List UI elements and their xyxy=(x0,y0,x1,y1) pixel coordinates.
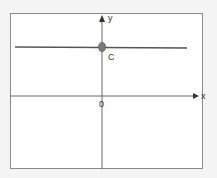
y-axis-label: y xyxy=(108,13,113,23)
x-axis-label: x xyxy=(201,91,206,101)
point-c-label: C xyxy=(108,52,115,62)
point-c-marker xyxy=(99,43,106,52)
y-axis-arrow-icon xyxy=(99,15,105,22)
origin-label: 0 xyxy=(99,99,104,109)
coordinate-graph: x y 0 C xyxy=(0,0,217,178)
x-axis-arrow-icon xyxy=(193,93,199,99)
